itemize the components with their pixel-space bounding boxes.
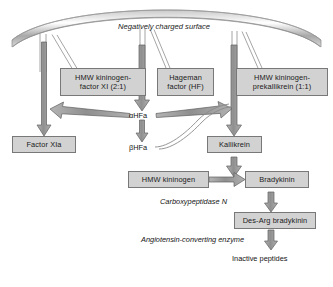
node-line: HMW kininogen- [254, 73, 310, 82]
label-alpha-hfa: αHFa [129, 111, 147, 120]
arrow-des-arg-to-inactive-peptides [265, 230, 278, 250]
label-angiotensin-converting-enzyme: Angiotensin-converting enzyme [141, 235, 244, 244]
node-line: Des-Arg bradykinin [243, 216, 308, 225]
node-line: Bradykinin [259, 175, 295, 184]
arrow-alpha-hfa-to-beta-hfa [136, 120, 148, 142]
node-des-arg-bradykinin[interactable]: Des-Arg bradykinin [234, 212, 316, 229]
node-line: Factor XIa [26, 140, 61, 149]
pathway-diagram: Negatively charged surface HMW kininogen… [0, 0, 333, 287]
label-carboxypeptidase-n: Carboxypeptidase N [160, 197, 227, 206]
node-hageman-factor[interactable]: Hageman factor (HF) [157, 68, 214, 96]
node-hmw-kininogen-prekallikrein[interactable]: HMW kininogen- prekallikrein (1:1) [236, 68, 328, 96]
node-bradykinin[interactable]: Bradykinin [245, 171, 309, 188]
node-line: HMW kininogen [142, 175, 195, 184]
node-line: factor XI (2:1) [80, 82, 126, 91]
arrow-alpha-hfa-to-left [50, 102, 130, 119]
node-line: Hageman [169, 73, 202, 82]
node-line: HMW kininogen- [75, 73, 131, 82]
arrow-bradykinin-to-des-arg [265, 192, 278, 212]
node-line: factor (HF) [167, 82, 203, 91]
label-inactive-peptides: Inactive peptides [232, 254, 287, 263]
label-beta-hfa: βHFa [129, 143, 147, 152]
node-factor-xia[interactable]: Factor XIa [12, 136, 76, 153]
node-line: Kallikrein [219, 140, 250, 149]
node-kallikrein[interactable]: Kallikrein [207, 136, 262, 153]
node-hmw-kininogen-factor-xi[interactable]: HMW kininogen- factor XI (2:1) [60, 68, 146, 96]
surface-tethers [40, 29, 262, 73]
arrow-surface-to-factor-xia [37, 42, 51, 136]
node-line: prekallikrein (1:1) [253, 82, 312, 91]
arrow-hmw-kininogen-to-bradykinin [209, 173, 245, 187]
surface-label: Negatively charged surface [118, 22, 210, 31]
node-hmw-kininogen[interactable]: HMW kininogen [128, 171, 209, 188]
